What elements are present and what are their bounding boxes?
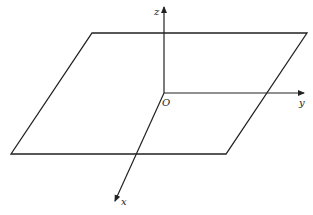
x-axis-label: x [121,196,127,207]
x-axis [115,93,164,201]
origin-label: O [162,97,170,108]
y-axis-label: y [298,97,305,108]
z-axis-label: z [153,6,160,17]
coordinate-diagram: z y x O [0,0,313,215]
